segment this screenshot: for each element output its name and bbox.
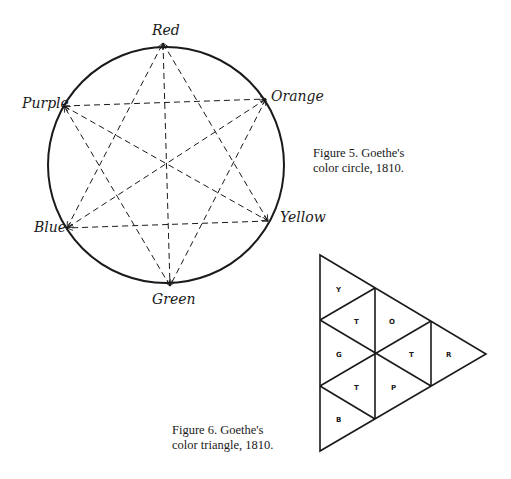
figure5-caption: Figure 5. Goethe's color circle, 1810. xyxy=(313,146,404,176)
triangle-outline xyxy=(320,255,486,451)
label-blue: Blue xyxy=(33,219,66,235)
label-green: Green xyxy=(152,291,195,307)
cell-label-t3: T xyxy=(354,384,359,392)
label-yellow: Yellow xyxy=(280,209,326,225)
figures-canvas: Red Orange Yellow Green Blue Purple Y T … xyxy=(0,0,511,479)
cell-label-t2: T xyxy=(409,351,414,359)
dashed-connections xyxy=(64,43,268,286)
figure6-caption-line2: color triangle, 1810. xyxy=(172,438,273,453)
color-triangle-diagram xyxy=(320,255,486,451)
grid-line-d2 xyxy=(320,386,375,419)
figure6-caption-line1: Figure 6. Goethe's xyxy=(172,423,273,438)
figure5-caption-line2: color circle, 1810. xyxy=(313,161,404,176)
cell-label-p: P xyxy=(391,384,396,392)
label-orange: Orange xyxy=(271,88,324,104)
grid-line-u1 xyxy=(320,288,375,320)
label-purple: Purple xyxy=(21,95,69,111)
label-red: Red xyxy=(151,22,180,38)
cell-label-b: B xyxy=(336,416,341,424)
figure5-caption-line1: Figure 5. Goethe's xyxy=(313,146,404,161)
color-circle-diagram: Red Orange Yellow Green Blue Purple xyxy=(21,22,326,307)
cell-label-r: R xyxy=(446,351,452,359)
figure6-caption: Figure 6. Goethe's color triangle, 1810. xyxy=(172,423,273,453)
color-circle-outline xyxy=(48,47,284,283)
line-green-purple xyxy=(64,106,170,286)
cell-label-o: O xyxy=(389,318,395,326)
triangle-cell-labels: Y T O G T R T P B xyxy=(335,286,452,424)
cell-label-y: Y xyxy=(335,286,342,294)
cell-label-g: G xyxy=(336,351,342,359)
cell-label-t1: T xyxy=(354,318,359,326)
line-yellow-blue xyxy=(67,221,268,228)
